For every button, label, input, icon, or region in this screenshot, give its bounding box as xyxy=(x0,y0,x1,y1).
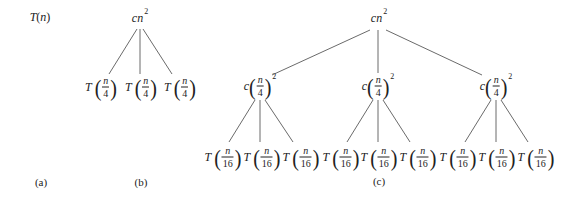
func-name: T xyxy=(30,10,37,25)
node-c-leaf: T(n16) xyxy=(243,146,280,169)
node-c-level1: c(n4)2 xyxy=(244,75,277,98)
node-c-root: cn2 xyxy=(371,11,387,26)
fraction: n16 xyxy=(417,146,429,169)
fraction: n16 xyxy=(496,146,508,169)
node-c-leaf: T(n16) xyxy=(204,146,241,169)
node-b-child: T(n4) xyxy=(85,76,117,99)
fraction: n4 xyxy=(375,75,382,98)
node-a-root: T(n) xyxy=(30,10,51,25)
node-b-child: T(n4) xyxy=(125,76,157,99)
fraction: n4 xyxy=(493,75,500,98)
func-name: T xyxy=(164,80,171,95)
node-c-leaf: T(n16) xyxy=(322,146,359,169)
fraction: n4 xyxy=(257,75,264,98)
node-b-child: T(n4) xyxy=(164,76,196,99)
fraction: n16 xyxy=(300,146,312,169)
fraction: n16 xyxy=(457,146,469,169)
func-arg: n xyxy=(40,10,46,25)
node-c-level1: c(n4)2 xyxy=(480,75,513,98)
fraction: n16 xyxy=(340,146,352,169)
fraction: n16 xyxy=(378,146,390,169)
var: n xyxy=(376,11,382,26)
fraction: n4 xyxy=(142,76,149,99)
fraction: n16 xyxy=(535,146,547,169)
var: n xyxy=(137,11,143,26)
func-name: T xyxy=(125,80,132,95)
caption-c: (c) xyxy=(373,175,385,187)
fraction: n4 xyxy=(102,76,109,99)
node-c-leaf: T(n16) xyxy=(360,146,397,169)
func-name: T xyxy=(85,80,92,95)
exponent: 2 xyxy=(390,72,394,81)
node-c-level1: c(n4)2 xyxy=(362,75,395,98)
exponent: 2 xyxy=(144,7,148,16)
node-c-leaf: T(n16) xyxy=(517,146,554,169)
node-c-leaf: T(n16) xyxy=(439,146,476,169)
node-c-leaf: T(n16) xyxy=(399,146,436,169)
fraction: n16 xyxy=(261,146,273,169)
caption-a: (a) xyxy=(35,176,47,188)
node-c-leaf: T(n16) xyxy=(282,146,319,169)
exponent: 2 xyxy=(383,7,387,16)
node-c-leaf: T(n16) xyxy=(478,146,515,169)
fraction: n4 xyxy=(181,76,188,99)
caption-b: (b) xyxy=(135,176,148,188)
exponent: 2 xyxy=(508,72,512,81)
node-b-root: cn2 xyxy=(132,11,148,26)
fraction: n16 xyxy=(222,146,234,169)
exponent: 2 xyxy=(272,72,276,81)
